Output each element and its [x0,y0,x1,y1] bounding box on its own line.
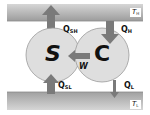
ql-label: QL [124,82,134,90]
cold-reservoir-bar [7,92,143,110]
device-s-label: S [38,43,68,65]
thermodynamic-diagram: S C QSH QH W QSL QL TH TL [0,0,150,115]
qh-label: QH [121,26,132,34]
cold-reservoir-label: TL [130,100,141,109]
w-label: W [79,63,88,71]
diagram-canvas [0,0,150,115]
device-c-label: C [87,43,117,65]
hot-reservoir-label: TH [130,8,141,17]
qsl-label: QSL [58,82,72,90]
hot-reservoir-bar [7,4,143,21]
qsh-label: QSH [63,26,78,34]
qsl-arrow-icon [47,82,55,94]
